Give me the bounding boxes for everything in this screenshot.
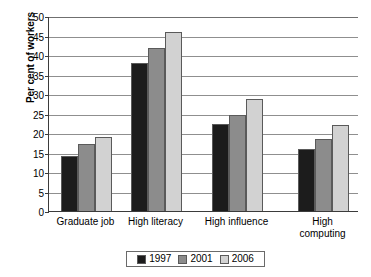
y-tick-label: 15: [33, 148, 44, 159]
legend-swatch-icon: [178, 255, 187, 264]
y-tick-label: 40: [33, 51, 44, 62]
legend-label: 2006: [232, 254, 254, 264]
y-tick-label: 50: [33, 12, 44, 23]
legend-swatch-icon: [137, 255, 146, 264]
legend-label: 1997: [149, 254, 171, 264]
y-tick-mark: [45, 154, 49, 155]
bar: [246, 99, 263, 211]
bar: [212, 124, 229, 211]
bar-group: [212, 17, 263, 211]
bar: [78, 144, 95, 211]
legend-swatch-icon: [220, 255, 229, 264]
bar-chart: Per cent of workers 05101520253035404550…: [0, 0, 371, 277]
bar: [95, 137, 112, 211]
y-tick-mark: [45, 212, 49, 213]
bar: [229, 115, 246, 211]
plot-area: 05101520253035404550: [48, 17, 358, 212]
legend-item[interactable]: 2006: [220, 254, 254, 264]
y-tick-label: 45: [33, 31, 44, 42]
bar: [131, 63, 148, 211]
bar: [332, 125, 349, 211]
x-axis-label: High computing: [268, 216, 371, 240]
bar-group: [61, 17, 112, 211]
bar-group: [298, 17, 349, 211]
y-tick-label: 10: [33, 168, 44, 179]
bar: [298, 149, 315, 211]
bar: [61, 156, 78, 211]
y-tick-mark: [45, 17, 49, 18]
y-tick-mark: [45, 115, 49, 116]
y-tick-label: 35: [33, 70, 44, 81]
y-tick-mark: [45, 37, 49, 38]
chart-legend: 199720012006: [126, 251, 265, 267]
y-tick-mark: [45, 134, 49, 135]
y-tick-label: 5: [38, 187, 44, 198]
bar: [165, 32, 182, 211]
y-tick-label: 30: [33, 90, 44, 101]
y-tick-label: 25: [33, 109, 44, 120]
legend-item[interactable]: 1997: [137, 254, 171, 264]
legend-item[interactable]: 2001: [178, 254, 212, 264]
y-tick-label: 20: [33, 129, 44, 140]
y-tick-mark: [45, 76, 49, 77]
legend-label: 2001: [190, 254, 212, 264]
y-tick-mark: [45, 193, 49, 194]
y-tick-mark: [45, 173, 49, 174]
bar-group: [131, 17, 182, 211]
y-tick-mark: [45, 56, 49, 57]
bar: [315, 139, 332, 211]
bar: [148, 48, 165, 211]
y-tick-mark: [45, 95, 49, 96]
